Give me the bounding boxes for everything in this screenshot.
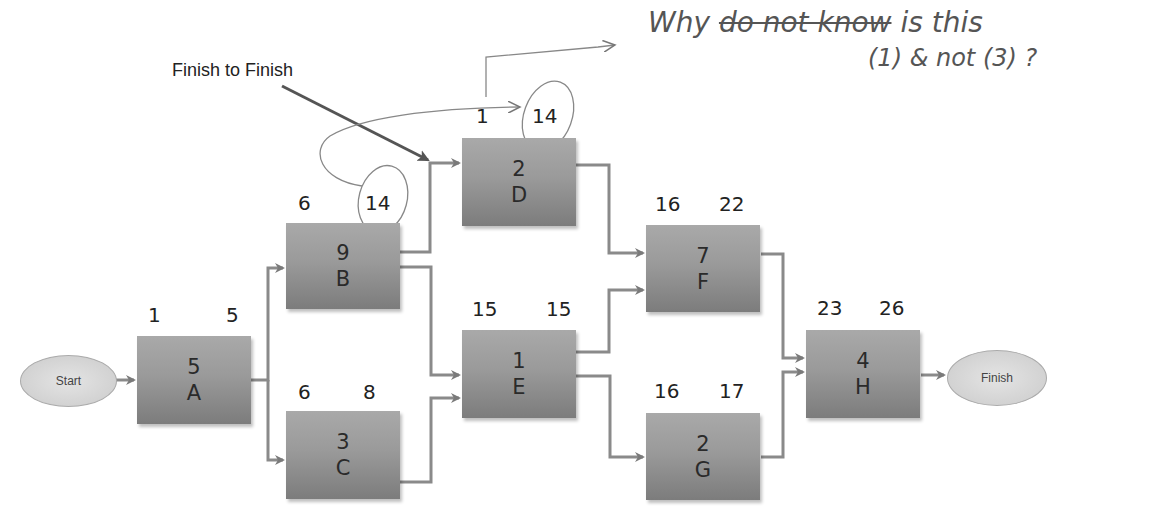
edge-b-e [400, 267, 459, 375]
node-e-id: E [512, 374, 525, 400]
node-a-duration: 5 [187, 354, 200, 380]
start-label: Start [56, 374, 81, 388]
node-g-id: G [695, 457, 711, 483]
edge-c-e [400, 398, 459, 482]
node-b-es: 6 [298, 191, 311, 215]
node-b-duration: 9 [336, 240, 349, 266]
node-d-id: D [511, 182, 527, 208]
node-h-es: 23 [817, 296, 842, 320]
edge-a-b [250, 268, 283, 380]
edge-e-g [576, 376, 643, 457]
node-h-id: H [855, 374, 871, 400]
node-a: 5 A [137, 336, 251, 424]
node-d-es: 1 [476, 104, 489, 128]
start-node: Start [20, 355, 117, 407]
node-g-duration: 2 [696, 431, 709, 457]
finish-to-finish-pointer [282, 86, 428, 160]
node-h: 4 H [806, 330, 920, 418]
note-suffix: is this [900, 6, 982, 39]
node-a-es: 1 [148, 303, 161, 327]
node-d-duration: 2 [512, 156, 525, 182]
handwritten-note-line2: (1) & not (3) ? [868, 44, 1037, 72]
node-e-duration: 1 [512, 348, 525, 374]
node-f-duration: 7 [696, 243, 709, 269]
node-f: 7 F [646, 225, 760, 312]
handwritten-note-line1: Why do not know is this [648, 6, 983, 39]
node-b-id: B [336, 266, 350, 292]
edge-d-f [576, 165, 643, 253]
node-f-id: F [697, 269, 709, 295]
node-f-es: 16 [655, 192, 680, 216]
finish-node: Finish [947, 350, 1047, 406]
finish-to-finish-label: Finish to Finish [172, 60, 293, 81]
node-h-ef: 26 [879, 296, 904, 320]
node-a-id: A [187, 380, 201, 406]
edge-f-h [761, 254, 803, 358]
node-c-ef: 8 [363, 380, 376, 404]
node-g-es: 16 [654, 379, 679, 403]
node-c-es: 6 [298, 380, 311, 404]
node-e-es: 15 [472, 297, 497, 321]
node-c-id: C [336, 455, 351, 481]
node-h-duration: 4 [856, 348, 869, 374]
node-a-ef: 5 [226, 303, 239, 327]
edge-g-h [761, 372, 803, 457]
handwritten-bracket-arrow [486, 45, 615, 97]
edge-e-f [576, 290, 643, 352]
node-c-duration: 3 [336, 429, 349, 455]
node-c: 3 C [286, 411, 400, 499]
finish-label: Finish [981, 371, 1013, 385]
node-b-ef: 14 [365, 191, 390, 215]
edge-b-d [400, 163, 459, 252]
edge-a-c [268, 380, 283, 460]
node-e: 1 E [462, 330, 576, 418]
node-e-ef: 15 [546, 297, 571, 321]
node-d: 2 D [462, 138, 576, 226]
node-f-ef: 22 [719, 192, 744, 216]
node-g: 2 G [646, 413, 760, 500]
note-prefix: Why [648, 6, 710, 39]
note-struck: do not know [719, 6, 892, 39]
network-diagram: Finish to Finish Why do not know is this… [0, 0, 1161, 512]
node-b: 9 B [286, 223, 400, 309]
node-d-ef: 14 [532, 104, 557, 128]
node-g-ef: 17 [719, 379, 744, 403]
